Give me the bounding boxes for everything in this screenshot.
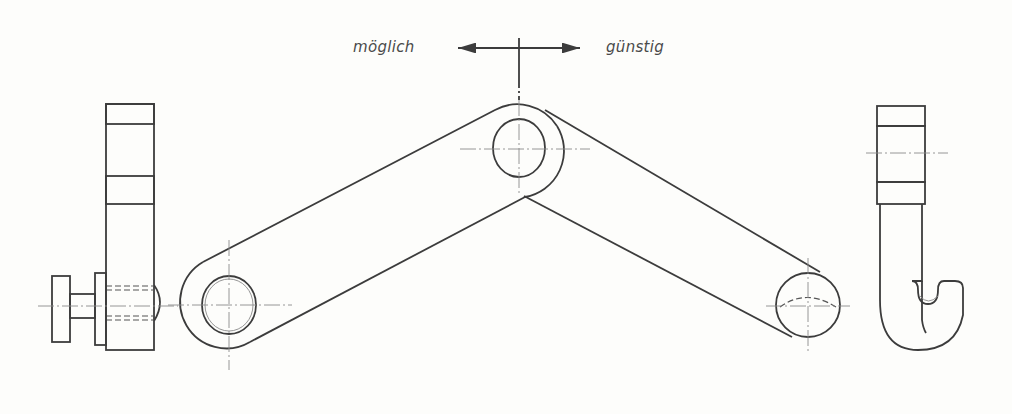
lever-arm-left <box>180 104 564 348</box>
side-view-left <box>38 104 178 350</box>
technical-drawing: möglich günstig <box>0 0 1012 414</box>
hook-hatched-top <box>877 106 925 126</box>
hook-outline <box>880 204 963 350</box>
knob-flange <box>95 273 106 345</box>
knob-head <box>52 276 70 342</box>
drawing-canvas <box>0 0 1012 414</box>
hatched-section-middle <box>106 176 154 204</box>
direction-arrow <box>458 38 580 100</box>
lever-arm-right <box>524 110 850 352</box>
hatched-section-top <box>106 104 154 124</box>
hook-view-right <box>866 106 963 350</box>
hook-hatched-bottom <box>877 182 925 204</box>
lever-front-view <box>168 100 850 370</box>
